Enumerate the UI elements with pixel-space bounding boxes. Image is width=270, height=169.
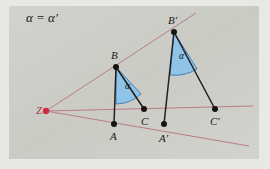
point-label-A-prime: A′ (158, 132, 169, 144)
vertex-dot-a (111, 121, 117, 127)
point-label-B: B (111, 49, 118, 61)
paper-texture (9, 6, 259, 159)
geometry-figure-root: α = α′ Z A B C A′ B′ C′ α α′ (0, 0, 270, 169)
vertex-dot-b (113, 64, 119, 70)
vertex-dot-c-prime (212, 106, 218, 112)
vertex-dot-c (141, 106, 147, 112)
point-label-B-prime: B′ (168, 14, 178, 26)
point-label-A: A (109, 130, 117, 142)
point-label-C-prime: C′ (210, 115, 220, 127)
vertex-dot-b-prime (171, 29, 177, 35)
vertex-dot-a-prime (161, 121, 167, 127)
point-label-C: C (141, 115, 149, 127)
angle-label-alpha-prime: α′ (179, 51, 187, 61)
angle-equality-title: α = α′ (26, 10, 58, 25)
geometry-diagram: α = α′ Z A B C A′ B′ C′ α α′ (0, 0, 270, 169)
center-of-dilation-dot (43, 108, 49, 114)
point-label-Z: Z (36, 104, 43, 116)
